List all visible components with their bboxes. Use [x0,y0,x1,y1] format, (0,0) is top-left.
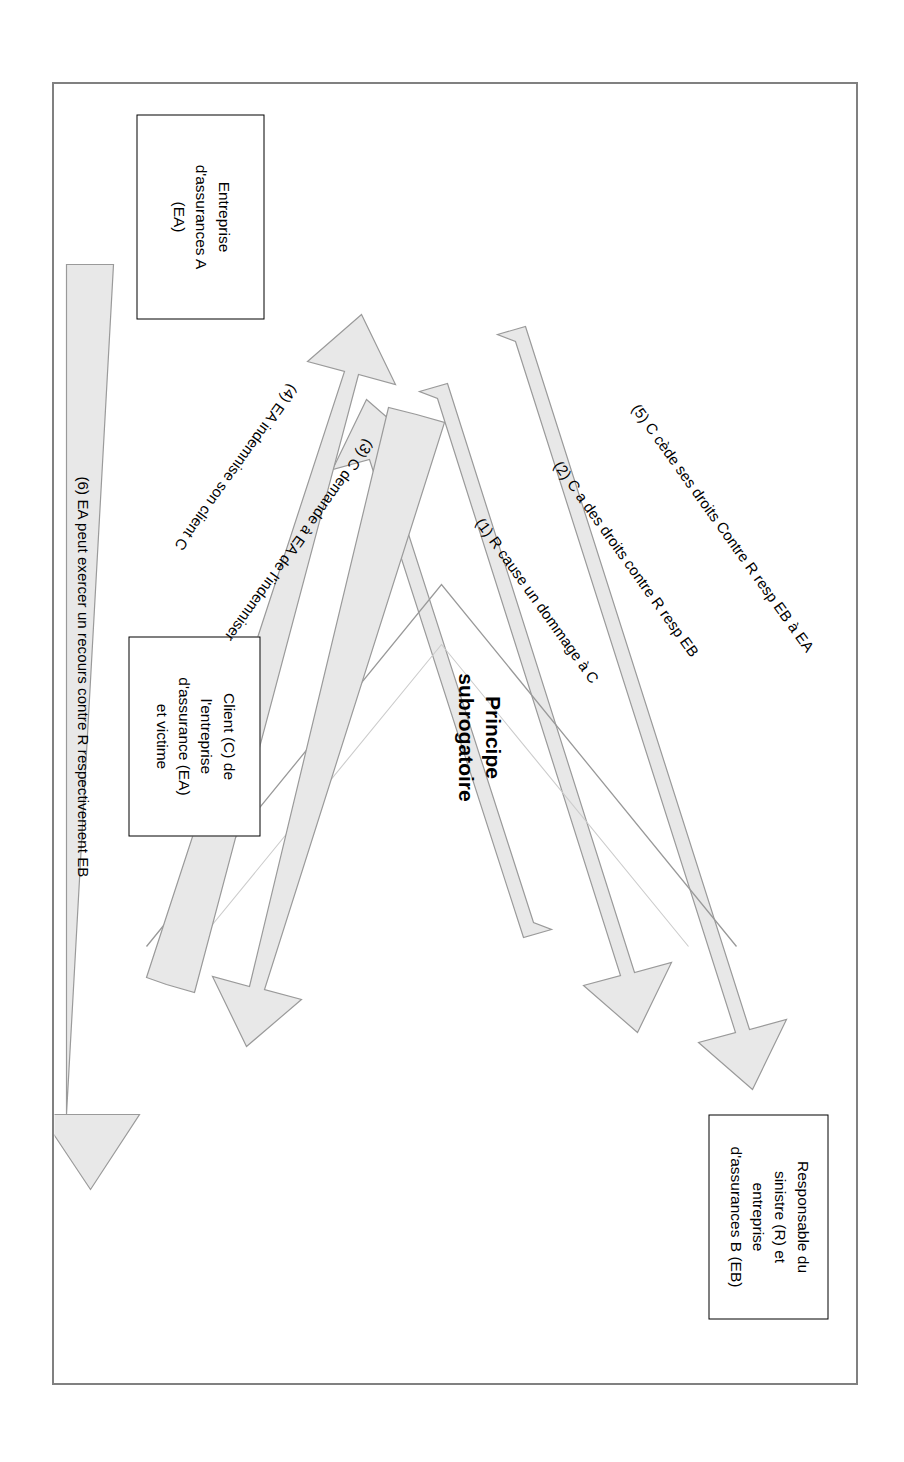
diagram-canvas: Responsable du sinistre (R) et entrepris… [54,84,856,1383]
arrow-6 [54,264,139,1189]
diagram-frame: Responsable du sinistre (R) et entrepris… [52,82,858,1385]
entity-box-responsable: Responsable du sinistre (R) et entrepris… [708,1114,828,1319]
page-title: Principe subrogatoire [451,592,506,882]
arrow-label-6: (6) EA peut exercer un recours contre R … [74,476,91,877]
entity-box-client: Client (C) de l'entreprise d'assurance (… [128,636,260,836]
entity-box-entreprise: Entreprise d'assurances A (EA) [136,114,264,319]
